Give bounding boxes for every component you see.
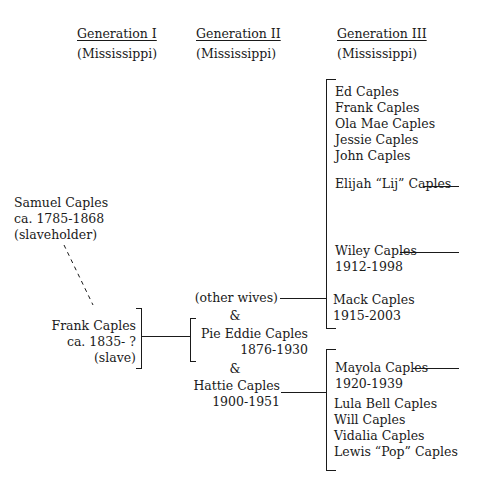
child-name: Wiley Caples (335, 243, 417, 259)
child-name: Mack Caples (333, 292, 415, 308)
child-name: John Caples (335, 148, 410, 164)
connector-line (280, 298, 326, 299)
bracket-children-1 (326, 79, 327, 329)
connector-line (281, 392, 327, 393)
bracket-tick (136, 308, 142, 309)
continuation-line (400, 252, 459, 253)
child-name: Will Caples (334, 412, 405, 428)
child-name: Vidalia Caples (334, 428, 425, 444)
other-wives: (other wives) (180, 290, 278, 306)
ampersand: & (220, 308, 250, 324)
bracket-tick (326, 79, 336, 80)
child-name: Ola Mae Caples (335, 116, 435, 132)
person-name: Pie Eddie Caples (180, 326, 308, 342)
child-dates: 1920-1939 (335, 376, 403, 392)
bracket-tick (326, 470, 336, 471)
bracket-frank (141, 308, 142, 369)
continuation-line (413, 368, 459, 369)
bracket-tick (190, 361, 196, 362)
person-note: (slave) (40, 350, 136, 366)
bracket-tick (326, 349, 336, 350)
child-dates: 1912-1998 (335, 259, 403, 275)
bracket-children-2 (326, 349, 327, 471)
child-name: Ed Caples (335, 84, 399, 100)
bracket-tick (326, 328, 336, 329)
person-dates: ca. 1835- ? (40, 334, 136, 350)
person-name: Frank Caples (40, 318, 136, 334)
bracket-tick (136, 368, 142, 369)
child-name: Lewis “Pop” Caples (334, 444, 458, 460)
child-dates: 1915-2003 (333, 308, 401, 324)
child-name: Jessie Caples (335, 132, 418, 148)
person-dates: 1900-1951 (180, 394, 280, 410)
child-name: Lula Bell Caples (334, 396, 437, 412)
bracket-tick (190, 318, 196, 319)
ampersand: & (220, 361, 250, 377)
child-elijah: Elijah “Lij” Caples (335, 176, 451, 192)
child-name: Frank Caples (335, 100, 420, 116)
person-name: Hattie Caples (180, 378, 280, 394)
person-dates: 1876-1930 (180, 342, 308, 358)
continuation-line (423, 186, 459, 187)
